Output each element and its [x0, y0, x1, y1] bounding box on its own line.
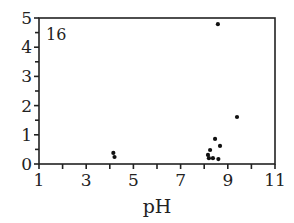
- x-tick-label: 7: [175, 170, 186, 190]
- panel-label: 16: [46, 25, 66, 44]
- y-tick-label: 2: [21, 96, 32, 116]
- data-point: [112, 155, 116, 159]
- x-tick-label: 11: [264, 170, 286, 190]
- x-tick-label: 1: [34, 170, 45, 190]
- data-point: [208, 148, 212, 152]
- data-point: [111, 151, 115, 155]
- y-tick-label: 0: [21, 154, 32, 174]
- x-tick-label: 9: [222, 170, 233, 190]
- x-tick-labels: 1357911: [34, 170, 286, 190]
- x-tick-label: 5: [128, 170, 139, 190]
- plot-border: [39, 18, 275, 164]
- axis-ticks: [34, 18, 275, 169]
- data-point: [216, 22, 220, 26]
- data-point: [207, 156, 211, 160]
- x-tick-label: 3: [81, 170, 92, 190]
- data-point: [235, 115, 239, 119]
- y-tick-label: 4: [21, 37, 32, 57]
- data-point: [211, 156, 215, 160]
- scatter-chart: 1357911 012345 16 pH: [0, 0, 294, 223]
- data-point: [218, 144, 222, 148]
- y-tick-labels: 012345: [21, 8, 32, 174]
- data-point: [213, 137, 217, 141]
- y-tick-label: 3: [21, 66, 32, 86]
- data-point: [216, 157, 220, 161]
- y-tick-label: 1: [21, 125, 32, 145]
- data-points: [111, 22, 239, 161]
- x-axis-title: pH: [143, 195, 172, 217]
- y-tick-label: 5: [21, 8, 32, 28]
- plot-frame: [39, 18, 275, 164]
